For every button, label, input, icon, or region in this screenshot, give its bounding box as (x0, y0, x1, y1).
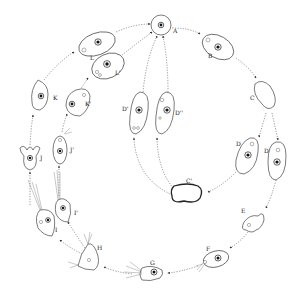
svg-text:C: C (250, 94, 255, 101)
stage-d-left: D (236, 138, 259, 174)
svg-text:J': J' (69, 146, 74, 154)
stage-f: F (196, 245, 231, 272)
stage-c-prime: C' (171, 177, 201, 202)
svg-text:J: J (39, 154, 43, 162)
svg-text:A: A (172, 27, 178, 34)
diagram-canvas: A B C D D C' E (0, 0, 300, 296)
stage-j: J (20, 146, 43, 170)
svg-text:D': D' (122, 105, 129, 112)
stage-d-right: D (264, 142, 286, 180)
svg-text:B: B (208, 52, 213, 59)
stage-j-prime: J' (53, 128, 74, 164)
svg-text:L': L' (115, 69, 121, 76)
life-cycle-diagram: A B C D D C' E (0, 0, 300, 296)
svg-text:K: K (53, 94, 58, 101)
stage-g: G (124, 259, 163, 281)
svg-text:I: I (55, 226, 58, 233)
svg-text:C': C' (186, 177, 193, 184)
svg-text:K': K' (85, 100, 91, 107)
svg-text:L: L (90, 54, 94, 61)
svg-text:D: D (236, 140, 241, 147)
svg-text:F: F (206, 245, 210, 252)
svg-text:G: G (150, 259, 155, 266)
stage-c: C (250, 81, 275, 108)
stage-k-prime: K' (66, 89, 91, 116)
svg-text:D: D (264, 147, 269, 154)
stage-h: H (68, 232, 102, 270)
stage-a: A (151, 15, 178, 35)
stage-d-prime: D' (122, 92, 148, 134)
stage-d-double-prime: D'' (156, 92, 184, 134)
svg-text:H: H (97, 244, 102, 251)
svg-text:E: E (241, 207, 245, 214)
stage-b: B (198, 29, 238, 65)
stage-i: I (28, 180, 58, 236)
stage-e: E (241, 207, 264, 232)
stage-k: K (32, 80, 58, 110)
svg-text:I': I' (74, 209, 78, 216)
svg-text:D'': D'' (175, 109, 183, 116)
stage-i-prime: I' (54, 170, 78, 222)
